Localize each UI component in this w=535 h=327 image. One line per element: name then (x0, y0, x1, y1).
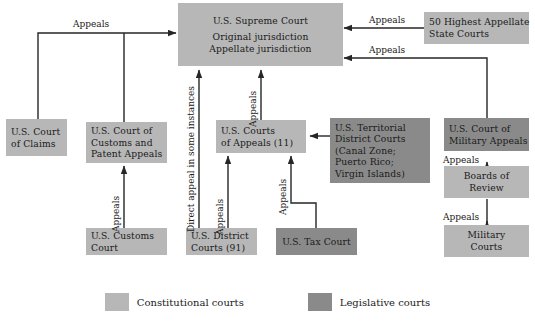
node-supreme-court-line-2: Appellate jurisdiction (209, 43, 311, 55)
node-territorial-district-courts-line-1: District Courts (335, 133, 406, 145)
node-tax-court-line-0: U.S. Tax Court (282, 236, 351, 248)
us-court-system-diagram: U.S. Supreme Court Original jurisdiction… (0, 0, 535, 327)
node-state-courts-line-1: State Courts (429, 28, 489, 40)
legend-item-constitutional: Constitutional courts (105, 293, 244, 311)
node-customs-patent-appeals-line-1: Customs and (91, 137, 153, 149)
legend-label-legislative: Legislative courts (340, 297, 430, 308)
node-customs-court-line-0: U.S. Customs (91, 230, 154, 242)
node-state-courts[interactable]: 50 Highest Appellate State Courts (424, 12, 529, 44)
legend-swatch-constitutional-icon (105, 293, 129, 311)
legend: Constitutional courts Legislative courts (0, 288, 535, 316)
node-military-courts-line-1: Courts (471, 241, 503, 253)
node-customs-court[interactable]: U.S. Customs Court (86, 228, 167, 255)
legend-item-legislative: Legislative courts (308, 293, 430, 311)
node-military-courts-line-0: Military (468, 229, 506, 241)
node-territorial-district-courts-line-2: (Canal Zone; (335, 145, 396, 157)
node-courts-of-appeals-line-1: of Appeals (11) (221, 137, 293, 149)
node-customs-court-line-1: Court (91, 242, 118, 254)
node-territorial-district-courts-line-3: Puerto Rico; (335, 156, 394, 168)
node-military-courts[interactable]: Military Courts (444, 225, 529, 257)
edge-label-appeals-customs-court: Appeals (111, 196, 121, 232)
node-supreme-court-line-1: Original jurisdiction (213, 31, 309, 43)
edge-label-appeals-state-1: Appeals (369, 15, 405, 25)
node-court-of-military-appeals-line-0: U.S. Court of (449, 123, 510, 135)
node-court-of-military-appeals-line-1: Military Appeals (449, 135, 527, 147)
edge-label-direct-appeal: Direct appeal in some instances (186, 86, 196, 232)
legend-swatch-legislative-icon (308, 293, 332, 311)
node-tax-court[interactable]: U.S. Tax Court (276, 228, 357, 255)
node-territorial-district-courts-line-4: Virgin Islands) (335, 168, 405, 180)
edge-label-appeals-state-2: Appeals (369, 45, 405, 55)
edge-label-appeals-boards-of-review: Appeals (443, 155, 479, 165)
node-supreme-court[interactable]: U.S. Supreme Court Original jurisdiction… (178, 3, 343, 66)
node-boards-of-review-line-0: Boards of (464, 170, 510, 182)
node-court-of-military-appeals[interactable]: U.S. Court of Military Appeals (444, 118, 529, 151)
legend-label-constitutional: Constitutional courts (137, 297, 244, 308)
edge-label-appeals-district-courts: Appeals (215, 199, 225, 235)
edge-label-appeals-military-courts: Appeals (443, 212, 479, 222)
node-courts-of-appeals[interactable]: U.S. Courts of Appeals (11) (216, 120, 306, 153)
edge-label-appeals-top-left: Appeals (73, 19, 109, 29)
node-court-of-claims-line-1: of Claims (11, 138, 56, 150)
node-territorial-district-courts[interactable]: U.S. Territorial District Courts (Canal … (330, 118, 430, 183)
node-customs-patent-appeals-line-0: U.S. Court of (91, 125, 152, 137)
node-court-of-claims[interactable]: U.S. Court of Claims (6, 119, 67, 156)
node-boards-of-review-line-1: Review (469, 182, 503, 194)
node-district-courts-line-1: Courts (91) (191, 242, 245, 254)
node-supreme-court-line-0: U.S. Supreme Court (213, 15, 308, 27)
node-state-courts-line-0: 50 Highest Appellate (429, 16, 529, 28)
node-boards-of-review[interactable]: Boards of Review (444, 166, 529, 198)
node-customs-patent-appeals[interactable]: U.S. Court of Customs and Patent Appeals (86, 122, 167, 163)
node-territorial-district-courts-line-0: U.S. Territorial (335, 122, 406, 134)
node-court-of-claims-line-0: U.S. Court (11, 126, 60, 138)
edge-label-appeals-tax-court: Appeals (278, 179, 288, 215)
edge-label-appeals-courts-of-appeals-to-supreme: Appeals (248, 91, 258, 127)
node-customs-patent-appeals-line-2: Patent Appeals (91, 148, 162, 160)
